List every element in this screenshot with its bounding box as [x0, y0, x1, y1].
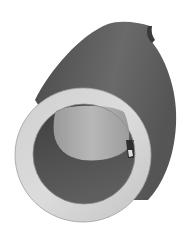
internal-keyway-surface — [54, 106, 130, 161]
bushing-render — [0, 0, 195, 246]
